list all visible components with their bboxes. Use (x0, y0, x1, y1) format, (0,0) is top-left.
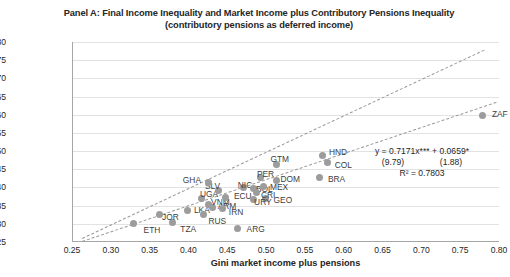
y-axis-tick-label: 0.35 (0, 201, 6, 211)
gridline (73, 42, 499, 43)
data-point (184, 207, 191, 214)
x-axis-label: Gini market income plus pensions (72, 258, 499, 268)
gridline (73, 115, 499, 116)
data-point-label: JOR (162, 212, 179, 222)
data-point (234, 225, 241, 232)
gridline (73, 206, 499, 207)
data-point-label: ZAF (492, 109, 508, 119)
x-axis-tick-label: 0.80 (474, 245, 510, 255)
data-point-label: COL (335, 160, 352, 170)
chart-title: Panel A: Final Income Inequality and Mar… (44, 7, 474, 31)
gridline (73, 60, 499, 61)
data-point-label: GEO (274, 195, 293, 205)
y-axis-tick-label: 0.55 (0, 128, 6, 138)
regression-annotation: y = 0.7171x*** + 0.0659*(9.79)(1.88)R² =… (352, 146, 492, 179)
y-axis-tick-label: 0.25 (0, 237, 6, 247)
data-point-label: ETH (144, 225, 161, 235)
y-axis-tick-label: 0.60 (0, 110, 6, 120)
y-axis-tick-label: 0.50 (0, 146, 6, 156)
gridline (73, 133, 499, 134)
chart-figure: Panel A: Final Income Inequality and Mar… (0, 0, 510, 277)
data-point-label: DOM (280, 174, 300, 184)
y-axis-tick-label: 0.80 (0, 37, 6, 47)
data-point-label: PER (257, 169, 274, 179)
data-point-label: ECU (234, 191, 252, 201)
data-point (479, 112, 486, 119)
data-point-label: IRN (229, 207, 243, 217)
gridline (73, 78, 499, 79)
gridline (73, 97, 499, 98)
tstat-slope: (9.79) (370, 157, 416, 168)
data-point-label: ARG (247, 224, 265, 234)
regression-tstats: (9.79)(1.88) (352, 157, 492, 168)
regression-equation: y = 0.7171x*** + 0.0659* (352, 146, 492, 157)
y-axis-tick-label: 0.30 (0, 219, 6, 229)
data-point (316, 174, 323, 181)
y-axis-tick-label: 0.75 (0, 55, 6, 65)
chart-title-line1: Panel A: Final Income Inequality and Mar… (44, 7, 474, 19)
y-axis-tick-label: 0.65 (0, 92, 6, 102)
data-point (324, 159, 331, 166)
tstat-intercept: (1.88) (428, 157, 474, 168)
data-point-label: RUS (208, 216, 226, 226)
data-point (273, 177, 280, 184)
data-point-label: TZA (180, 224, 196, 234)
y-axis-tick-label: 0.40 (0, 182, 6, 192)
data-point (130, 220, 137, 227)
chart-subtitle: (contributory pensions as deferred incom… (44, 19, 474, 31)
r-squared: R² = 0.7803 (352, 168, 492, 179)
data-point-label: URY (254, 197, 272, 207)
data-point-label: HND (329, 147, 347, 157)
data-point-label: GHA (183, 175, 201, 185)
data-point-label: BRA (328, 174, 345, 184)
data-point (200, 211, 207, 218)
plot-area: ETHTZAJORLKARUSARMIRNVNMUGAECUSLVGHAGEOA… (72, 42, 499, 242)
y-axis-tick-label: 0.45 (0, 164, 6, 174)
y-axis-tick-label: 0.70 (0, 73, 6, 83)
data-point-label: GTM (270, 154, 289, 164)
